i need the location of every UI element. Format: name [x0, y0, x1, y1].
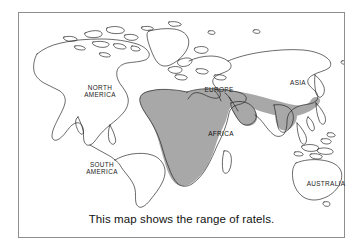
ratel-range-shading [140, 89, 320, 186]
figure-container: NORTH AMERICA SOUTH AMERICA EUROPE ASIA … [0, 0, 363, 246]
world-map: NORTH AMERICA SOUTH AMERICA EUROPE ASIA … [19, 13, 344, 208]
world-map-svg [19, 13, 344, 208]
figure-caption: This map shows the range of ratels. [19, 213, 344, 226]
